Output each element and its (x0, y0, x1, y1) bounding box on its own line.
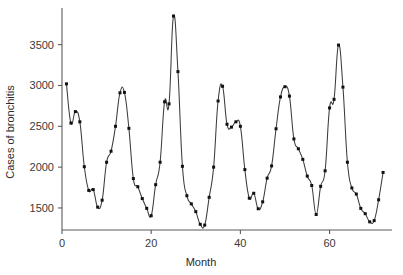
data-point-marker (110, 150, 113, 153)
data-point-marker (234, 120, 237, 123)
y-tick-label: 2500 (30, 120, 54, 132)
x-tick-label: 40 (234, 237, 246, 249)
data-point-marker (368, 220, 371, 223)
x-tick-label: 0 (59, 237, 65, 249)
data-point-marker (176, 70, 179, 73)
data-point-marker (92, 188, 95, 191)
data-point-marker (159, 161, 162, 164)
data-point-marker (226, 123, 229, 126)
y-tick-label: 3000 (30, 79, 54, 91)
y-axis-title: Cases of bronchitis (4, 85, 16, 179)
data-point-marker (194, 210, 197, 213)
data-point-marker (319, 185, 322, 188)
series-line-bronchitis (66, 15, 383, 228)
data-point-marker (350, 186, 353, 189)
data-point-marker (65, 82, 68, 85)
data-point-marker (168, 102, 171, 105)
data-series-group (65, 15, 385, 229)
data-point-marker (346, 161, 349, 164)
y-axis-ticks: 15002000250030003500 (30, 39, 62, 214)
data-point-marker (337, 44, 340, 47)
data-point-marker (306, 175, 309, 178)
data-point-marker (355, 193, 358, 196)
data-point-marker (261, 200, 264, 203)
data-point-marker (283, 85, 286, 88)
data-point-marker (185, 194, 188, 197)
chart-canvas: 15002000250030003500 0204060 Month Cases… (0, 0, 403, 275)
data-point-marker (74, 110, 77, 113)
data-point-marker (297, 147, 300, 150)
data-point-marker (230, 126, 233, 129)
data-point-marker (248, 197, 251, 200)
data-point-marker (105, 161, 108, 164)
data-point-marker (123, 91, 126, 94)
data-point-marker (181, 165, 184, 168)
data-point-marker (328, 106, 331, 109)
data-point-marker (377, 198, 380, 201)
data-point-marker (257, 207, 260, 210)
data-point-marker (163, 100, 166, 103)
data-point-marker (132, 177, 135, 180)
data-point-marker (266, 177, 269, 180)
data-point-marker (114, 125, 117, 128)
data-point-marker (118, 91, 121, 94)
data-point-marker (252, 192, 255, 195)
data-point-marker (310, 184, 313, 187)
data-point-marker (203, 224, 206, 227)
data-point-marker (199, 223, 202, 226)
data-point-marker (172, 15, 175, 18)
data-point-marker (270, 164, 273, 167)
y-axis-group: 15002000250030003500 (30, 8, 62, 230)
x-axis-ticks: 0204060 (59, 230, 336, 249)
series-markers-bronchitis (65, 15, 385, 227)
data-point-marker (341, 86, 344, 89)
data-point-marker (212, 166, 215, 169)
data-point-marker (301, 158, 304, 161)
data-point-marker (154, 183, 157, 186)
data-point-marker (333, 98, 336, 101)
data-point-marker (141, 197, 144, 200)
data-point-marker (96, 206, 99, 209)
data-point-marker (324, 169, 327, 172)
data-point-marker (279, 95, 282, 98)
data-point-marker (69, 122, 72, 125)
data-point-marker (382, 171, 385, 174)
y-tick-label: 2000 (30, 161, 54, 173)
data-point-marker (217, 100, 220, 103)
y-tick-label: 3500 (30, 39, 54, 51)
data-point-marker (292, 137, 295, 140)
data-point-marker (364, 212, 367, 215)
data-point-marker (127, 127, 130, 130)
x-tick-label: 60 (323, 237, 335, 249)
data-point-marker (101, 199, 104, 202)
data-point-marker (288, 95, 291, 98)
data-point-marker (243, 168, 246, 171)
data-point-marker (208, 196, 211, 199)
x-axis-title: Month (186, 256, 217, 268)
data-point-marker (221, 85, 224, 88)
y-tick-label: 1500 (30, 202, 54, 214)
data-point-marker (136, 185, 139, 188)
data-point-marker (190, 202, 193, 205)
data-point-marker (239, 125, 242, 128)
data-point-marker (83, 165, 86, 168)
data-point-marker (275, 127, 278, 130)
data-point-marker (373, 219, 376, 222)
data-point-marker (87, 189, 90, 192)
data-point-marker (145, 207, 148, 210)
data-point-marker (150, 214, 153, 217)
data-point-marker (315, 213, 318, 216)
data-point-marker (359, 207, 362, 210)
data-point-marker (78, 120, 81, 123)
bronchitis-time-series-chart: 15002000250030003500 0204060 Month Cases… (0, 0, 403, 275)
x-tick-label: 20 (145, 237, 157, 249)
x-axis-group: 0204060 (59, 230, 392, 249)
